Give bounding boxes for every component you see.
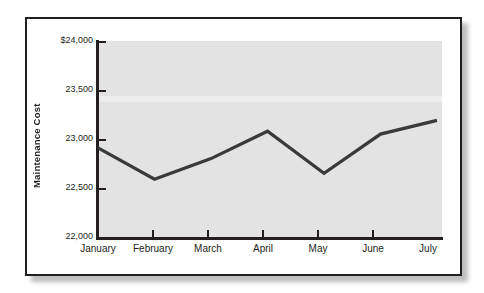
figure-root: $24,000 23,500 23,000 22,500 22,000 Main… xyxy=(0,0,484,293)
data-line-maintenance-cost xyxy=(98,120,437,179)
line-chart: $24,000 23,500 23,000 22,500 22,000 Main… xyxy=(0,0,484,293)
series-overlay xyxy=(0,0,484,293)
